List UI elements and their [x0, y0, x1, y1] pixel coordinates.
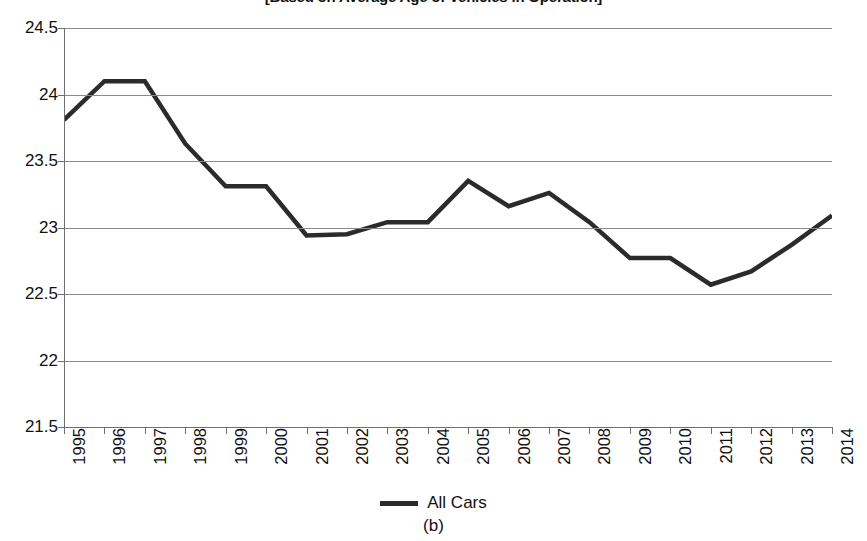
- chart-title: [Based on Average Age of Vehicles in Ope…: [0, 0, 867, 5]
- y-axis-tick-mark: [58, 361, 65, 362]
- y-axis-tick-label: 24.5: [6, 18, 58, 38]
- x-axis-tick-label: 2003: [393, 428, 412, 465]
- legend-label-all-cars: All Cars: [427, 493, 487, 513]
- gridline: [64, 294, 832, 295]
- y-axis-tick-label: 23.5: [6, 151, 58, 171]
- y-axis-tick-label: 22: [6, 351, 58, 371]
- x-axis-tick-label: 1997: [151, 428, 170, 465]
- x-axis-labels: 1995199619971998199920002001200220032004…: [0, 428, 867, 500]
- x-axis-tick-label: 2009: [636, 428, 655, 465]
- x-axis-tick-label: 2007: [555, 428, 574, 465]
- x-axis-tick-label: 2000: [272, 428, 291, 465]
- gridline: [64, 361, 832, 362]
- plot-area: [64, 28, 832, 427]
- y-axis-tick-mark: [58, 161, 65, 162]
- x-axis-tick-label: 2008: [595, 428, 614, 465]
- x-axis-tick-label: 2004: [434, 428, 453, 465]
- x-axis-tick-label: 2001: [313, 428, 332, 465]
- gridline: [64, 228, 832, 229]
- x-axis-tick-label: 2011: [717, 428, 736, 463]
- gridline: [64, 28, 832, 29]
- y-axis-tick-mark: [58, 95, 65, 96]
- y-axis-tick-label: 22.5: [6, 284, 58, 304]
- y-axis-tick-label: 24: [6, 85, 58, 105]
- chart-title-clip: [Based on Average Age of Vehicles in Ope…: [0, 0, 867, 9]
- chart-legend: All Cars: [0, 493, 867, 513]
- y-axis-tick-mark: [58, 228, 65, 229]
- x-axis-tick-label: 1995: [70, 428, 89, 465]
- x-axis-tick-label: 2002: [353, 428, 372, 465]
- figure-caption: (b): [0, 516, 867, 536]
- y-axis-tick-mark: [58, 28, 65, 29]
- gridline: [64, 95, 832, 96]
- legend-line-swatch-icon: [380, 501, 418, 506]
- x-axis-tick-label: 1996: [110, 428, 129, 465]
- x-axis-tick-label: 1998: [191, 428, 210, 465]
- x-axis-tick-label: 2013: [798, 428, 817, 465]
- gridline: [64, 161, 832, 162]
- x-axis-tick-label: 1999: [232, 428, 251, 465]
- x-axis-tick-label: 2010: [676, 428, 695, 465]
- x-axis-tick-label: 2014: [838, 428, 857, 465]
- x-axis-tick-label: 2012: [757, 428, 776, 465]
- y-axis-tick-mark: [58, 294, 65, 295]
- line-chart: 24.52423.52322.52221.5: [0, 9, 867, 424]
- y-axis-tick-label: 23: [6, 218, 58, 238]
- x-axis-tick-label: 2006: [515, 428, 534, 465]
- y-axis-labels: 24.52423.52322.52221.5: [0, 28, 58, 428]
- x-axis-tick-label: 2005: [474, 428, 493, 465]
